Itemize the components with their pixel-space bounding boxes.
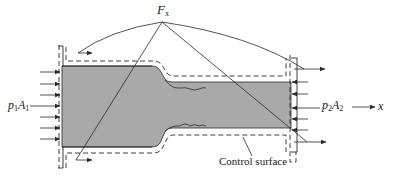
control-surface-leader	[243, 137, 252, 156]
force-label: Fx	[157, 2, 169, 18]
inlet-force-label: p1A1	[8, 98, 29, 113]
control-volume-diagram	[0, 0, 398, 179]
outlet-force-label: p2A2	[322, 98, 343, 113]
fluid-region	[62, 66, 291, 147]
x-axis-label: x	[378, 99, 383, 114]
inlet-pressure-arrows	[30, 72, 60, 139]
outlet-pressure-arrows	[292, 82, 320, 130]
control-surface-label: Control surface	[219, 155, 287, 167]
